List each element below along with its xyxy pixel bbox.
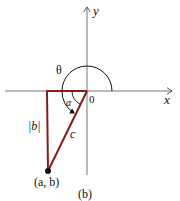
theta-label: θ (56, 63, 62, 77)
b-abs-label: |b| (28, 119, 41, 133)
caption: (b) (78, 187, 92, 201)
diagram: y x 0 θ α |b| c (a, b) (b) (0, 0, 180, 201)
x-axis-label: x (163, 92, 170, 107)
alpha-label: α (66, 97, 72, 108)
y-axis-label: y (91, 3, 99, 18)
alpha-arc (72, 91, 80, 104)
c-label: c (70, 127, 76, 141)
point-label: (a, b) (34, 175, 59, 189)
origin-label: 0 (89, 93, 95, 105)
point-marker (45, 168, 51, 174)
diagram-svg: y x 0 θ α |b| c (a, b) (b) (0, 0, 180, 201)
